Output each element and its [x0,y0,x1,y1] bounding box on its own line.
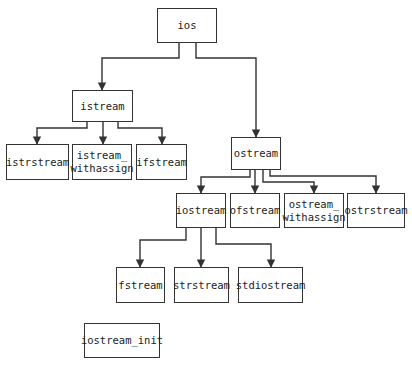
node-istream-withassign: istream_ withassign [72,144,132,180]
edge-iostream-to-fstream [140,228,186,267]
node-ostream: ostream [231,137,281,170]
node-iostream-init: iostream_init [84,323,160,358]
node-fstream: fstream [116,267,165,303]
node-stdiostream: stdiostream [238,267,303,303]
edge-ios-to-ostream [196,43,256,137]
node-strstream: strstream [174,267,229,303]
edge-istream-to-ifstream [118,122,162,144]
edge-istream-to-istrstream [37,122,87,144]
edge-ios-to-istream [102,43,179,90]
node-istrstream: istrstream [6,144,69,180]
node-ostrstream: ostrstream [347,193,405,228]
edges-layer [0,0,412,369]
node-ostream-withassign: ostream_ withassign [284,193,344,228]
node-istream: istream [72,90,133,122]
node-ios: ios [157,8,217,43]
node-ifstream: ifstream [136,144,187,180]
node-ofstream: ofstream [230,193,280,228]
edge-iostream-to-stdiostream [216,228,271,267]
edge-ostream-to-iostream [201,170,250,193]
node-iostream: iostream [176,193,226,228]
